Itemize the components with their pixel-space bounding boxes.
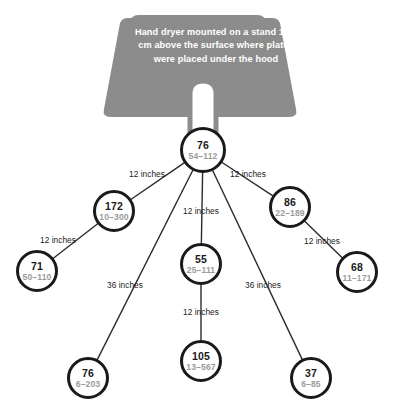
edge-root-left-1 xyxy=(130,162,185,200)
edge-left-1-left-2 xyxy=(52,223,98,259)
node-circle-root xyxy=(182,129,225,172)
edge-root-center-1 xyxy=(201,171,202,244)
node-circle-left-1 xyxy=(95,192,134,231)
node-circle-bottom-mid xyxy=(182,342,221,381)
node-circle-bottom-right xyxy=(292,359,331,398)
hand-dryer-tree-diagram xyxy=(0,0,396,417)
node-circle-right-1 xyxy=(271,188,310,227)
node-circle-right-2 xyxy=(338,253,377,292)
node-circle-center-1 xyxy=(182,245,221,284)
diagram-canvas: Hand dryer mounted on a stand 15.2 cm ab… xyxy=(0,0,396,417)
nodes-layer xyxy=(18,129,377,398)
node-circle-bottom-left xyxy=(69,359,108,398)
edge-right-1-right-2 xyxy=(304,221,343,259)
node-circle-left-2 xyxy=(18,252,57,291)
edge-root-right-1 xyxy=(221,162,274,197)
